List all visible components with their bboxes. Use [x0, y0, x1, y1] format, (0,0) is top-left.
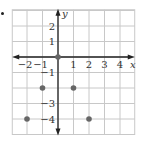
- y-tick-label: −3: [40, 98, 55, 109]
- x-tick-label: 3: [101, 59, 107, 70]
- y-axis-label: y: [61, 8, 68, 19]
- grid-lines: [12, 10, 134, 135]
- y-tick-label: −1: [40, 67, 55, 78]
- data-point: [24, 116, 30, 122]
- data-point: [40, 85, 46, 91]
- data-point: [71, 85, 77, 91]
- coordinate-plane: −2−11234x21−1−3−4y: [0, 0, 144, 142]
- data-point: [86, 116, 92, 122]
- y-tick-label: 2: [49, 21, 55, 32]
- x-tick-label: 4: [117, 59, 123, 70]
- y-tick-label: 1: [49, 36, 55, 47]
- x-tick-label: 2: [86, 59, 92, 70]
- y-tick-label: −4: [40, 114, 55, 125]
- data-point: [55, 54, 61, 60]
- x-tick-label: 1: [70, 59, 76, 70]
- x-axis-label: x: [130, 59, 136, 70]
- x-tick-label: −2: [18, 59, 33, 70]
